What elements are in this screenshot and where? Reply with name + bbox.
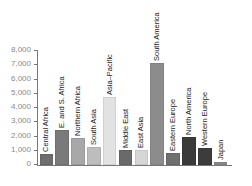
- bar: [40, 154, 54, 165]
- bar-label: Japan: [217, 139, 225, 159]
- bar: [119, 150, 133, 165]
- bar-label: Asia–Pacific: [106, 54, 114, 95]
- y-tick: [34, 50, 38, 51]
- y-tick: [34, 79, 38, 80]
- y-tick: [34, 121, 38, 122]
- bar: [150, 63, 164, 165]
- bar-label: Northern Africa: [74, 86, 82, 136]
- bar: [182, 137, 196, 165]
- bar-label: East Asia: [137, 116, 145, 147]
- bar-label: Eastern Europe: [169, 98, 177, 150]
- y-tick-label: 5,000: [1, 88, 31, 97]
- y-tick: [34, 64, 38, 65]
- y-tick-label: 8,000: [1, 45, 31, 54]
- bar-label: Central Africa: [42, 107, 50, 152]
- y-tick-label: 3,000: [1, 116, 31, 125]
- bar-chart: 01,0002,0003,0004,0005,0006,0007,0008,00…: [0, 0, 252, 186]
- bar: [103, 97, 117, 165]
- y-tick-label: 0: [1, 159, 31, 168]
- bar: [87, 147, 101, 165]
- bar: [71, 138, 85, 165]
- y-tick: [34, 93, 38, 94]
- y-tick: [34, 107, 38, 108]
- x-axis: [37, 165, 232, 166]
- y-tick: [34, 150, 38, 151]
- bar-label: Middle East: [122, 109, 130, 148]
- bar-label: E. and S. Africa: [58, 76, 66, 128]
- bar: [198, 148, 212, 165]
- bar-label: South Asia: [90, 109, 98, 145]
- bar: [166, 153, 180, 165]
- bar-label: South America: [153, 12, 161, 61]
- bar: [135, 150, 149, 165]
- bar: [55, 130, 69, 165]
- bar-label: North America: [185, 87, 193, 135]
- y-tick-label: 4,000: [1, 102, 31, 111]
- y-tick-label: 6,000: [1, 74, 31, 83]
- bar-label: Western Europe: [201, 92, 209, 146]
- y-tick-label: 1,000: [1, 145, 31, 154]
- y-tick-label: 7,000: [1, 59, 31, 68]
- y-tick-label: 2,000: [1, 131, 31, 140]
- y-tick: [34, 136, 38, 137]
